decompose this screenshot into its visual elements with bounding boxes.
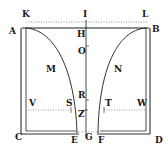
label-T: T [105, 98, 112, 108]
label-B: B [152, 24, 160, 34]
label-A: A [8, 26, 17, 36]
label-O: O [78, 46, 86, 56]
label-H: H [77, 29, 86, 39]
geometry-diagram: K I L A H B O M N R S T V W Z C E G F D [0, 0, 168, 154]
label-I: I [83, 9, 87, 19]
label-M: M [46, 64, 56, 74]
label-Z: Z [78, 109, 85, 119]
curve-AME [26, 28, 77, 133]
label-V: V [28, 98, 37, 108]
label-L: L [142, 9, 149, 19]
label-N: N [114, 64, 122, 74]
label-F: F [98, 135, 105, 145]
label-R: R [78, 90, 86, 100]
label-W: W [136, 98, 148, 108]
label-K: K [22, 9, 31, 19]
label-S: S [66, 98, 73, 108]
label-D: D [155, 135, 163, 145]
label-C: C [15, 132, 22, 142]
label-G: G [85, 132, 93, 142]
label-E: E [71, 135, 78, 145]
curve-BNF [98, 28, 146, 133]
